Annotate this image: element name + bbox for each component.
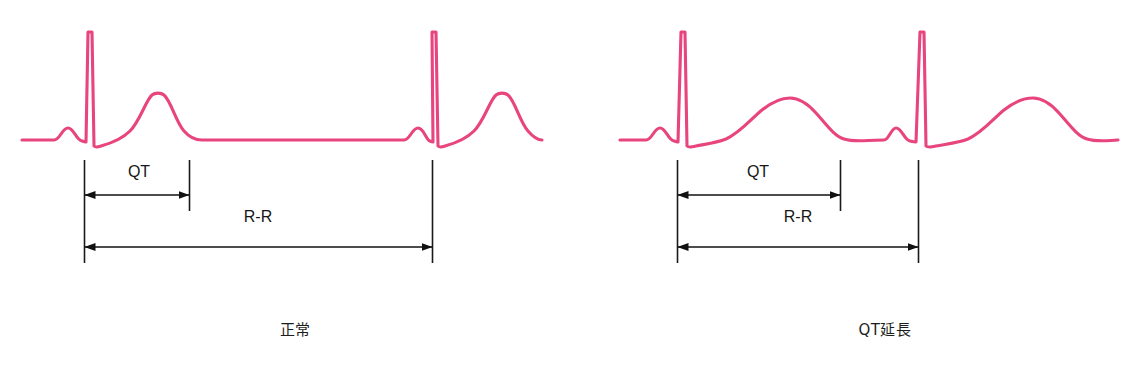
panel-caption-qt-prolonged: QT延長 — [795, 318, 975, 339]
rr-label-normal: R-R — [218, 208, 298, 226]
panel-normal — [22, 32, 542, 263]
ecg-figure: QT R-R QT R-R 正常 QT延長 — [0, 0, 1133, 372]
ecg-trace-qt-prolonged — [620, 32, 1118, 147]
panel-qt-prolonged — [620, 32, 1118, 263]
ecg-trace-normal — [22, 32, 542, 147]
ecg-diagram-svg — [0, 0, 1133, 372]
qt-label-prolonged: QT — [726, 163, 790, 181]
qt-label-normal: QT — [107, 163, 171, 181]
rr-label-prolonged: R-R — [758, 208, 838, 226]
panel-caption-normal: 正常 — [215, 318, 375, 339]
